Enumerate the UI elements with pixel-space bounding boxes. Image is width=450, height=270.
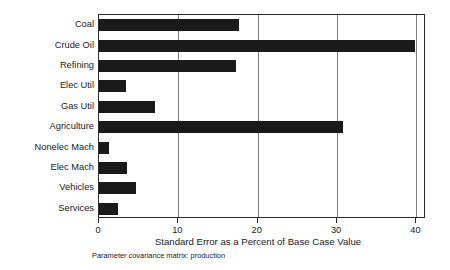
x-axis-title: Standard Error as a Percent of Base Case… bbox=[0, 236, 450, 247]
bar-services bbox=[99, 203, 118, 215]
x-tick-mark-10 bbox=[177, 218, 178, 223]
y-tick-label-gas-util: Gas Util bbox=[0, 101, 94, 111]
bar-agriculture bbox=[99, 121, 343, 133]
y-tick-label-crude-oil: Crude Oil bbox=[0, 40, 94, 50]
x-tick-label-0: 0 bbox=[95, 225, 100, 236]
bar-row bbox=[99, 35, 424, 55]
x-tick-mark-20 bbox=[257, 218, 258, 223]
x-tick-label-40: 40 bbox=[410, 225, 420, 236]
bar-elec-util bbox=[99, 80, 126, 92]
plot-area bbox=[98, 14, 425, 218]
y-tick-label-refining: Refining bbox=[0, 60, 94, 70]
bar-row bbox=[99, 137, 424, 157]
y-tick-label-nonelec-mach: Nonelec Mach bbox=[0, 142, 94, 152]
x-tick-mark-30 bbox=[336, 218, 337, 223]
x-tick-label-10: 10 bbox=[172, 225, 182, 236]
bar-row bbox=[99, 117, 424, 137]
bar-row bbox=[99, 158, 424, 178]
x-tick-label-30: 30 bbox=[331, 225, 341, 236]
x-tick-label-20: 20 bbox=[252, 225, 262, 236]
figure-caption: Parameter covariance matrix: production bbox=[92, 251, 225, 260]
bar-row bbox=[99, 97, 424, 117]
x-tick-mark-40 bbox=[415, 218, 416, 223]
bar-chart-figure: CoalCrude OilRefiningElec UtilGas UtilAg… bbox=[0, 0, 450, 270]
y-axis-category-labels: CoalCrude OilRefiningElec UtilGas UtilAg… bbox=[0, 14, 94, 218]
bar-vehicles bbox=[99, 182, 136, 194]
y-tick-label-elec-util: Elec Util bbox=[0, 80, 94, 90]
bar-series bbox=[99, 15, 424, 217]
bar-row bbox=[99, 76, 424, 96]
bar-crude-oil bbox=[99, 40, 415, 52]
bar-row bbox=[99, 178, 424, 198]
bar-gas-util bbox=[99, 101, 155, 113]
bar-refining bbox=[99, 60, 236, 72]
bar-row bbox=[99, 56, 424, 76]
y-tick-label-coal: Coal bbox=[0, 19, 94, 29]
x-tick-mark-0 bbox=[98, 218, 99, 223]
bar-row bbox=[99, 15, 424, 35]
bar-elec-mach bbox=[99, 162, 127, 174]
bar-row bbox=[99, 199, 424, 219]
y-tick-label-agriculture: Agriculture bbox=[0, 121, 94, 131]
y-tick-label-vehicles: Vehicles bbox=[0, 182, 94, 192]
y-tick-label-elec-mach: Elec Mach bbox=[0, 162, 94, 172]
bar-nonelec-mach bbox=[99, 142, 109, 154]
y-tick-label-services: Services bbox=[0, 203, 94, 213]
bar-coal bbox=[99, 19, 239, 31]
